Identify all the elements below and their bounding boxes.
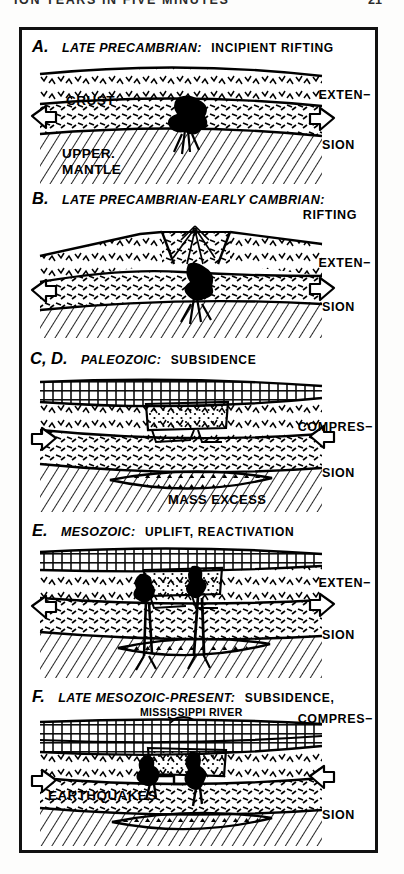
panel-a-stress-bottom: SION	[322, 138, 355, 152]
label-earthquakes: EARTHQUAKES	[48, 788, 157, 803]
panel-f-event: SUBSIDENCE,	[245, 691, 335, 705]
panel-b-stress-top: EXTEN−	[318, 256, 371, 270]
page-number: 21	[368, 0, 382, 7]
label-crust: CRUST	[66, 93, 115, 108]
panel-b: B. LATE PRECAMBRIAN-EARLY CAMBRIAN: RIFT…	[22, 188, 375, 343]
label-mantle: MANTLE	[62, 162, 121, 177]
panel-a-event: INCIPIENT RIFTING	[211, 41, 334, 55]
panel-f-era: LATE MESOZOIC-PRESENT:	[58, 691, 235, 705]
label-upper: UPPER.	[62, 146, 115, 161]
panel-e-era: MESOZOIC:	[61, 525, 135, 539]
panel-b-cross-section	[22, 220, 375, 340]
panel-cd: C, D. PALEOZOIC: SUBSIDENCE	[22, 348, 375, 516]
panel-a-letter: A.	[32, 37, 49, 55]
panel-e-stress-bottom: SION	[322, 628, 355, 642]
panel-b-title: B. LATE PRECAMBRIAN-EARLY CAMBRIAN:	[32, 188, 325, 208]
panel-a-era: LATE PRECAMBRIAN:	[62, 41, 202, 55]
figure-frame: A. LATE PRECAMBRIAN: INCIPIENT RIFTING	[19, 27, 378, 853]
panel-cd-event: SUBSIDENCE	[171, 353, 257, 367]
label-mississippi-river: MISSISSIPPI RIVER	[140, 706, 243, 718]
panel-e-stress-top: EXTEN−	[318, 576, 371, 590]
panel-f-letter: F.	[32, 687, 45, 705]
panel-cd-letter: C, D.	[30, 349, 68, 367]
panel-e-cross-section	[22, 544, 375, 680]
page-running-header: ION YEARS IN FIVE MINUTES 21	[0, 0, 404, 12]
panel-a-stress-top: EXTEN−	[318, 88, 371, 102]
panel-a-title: A. LATE PRECAMBRIAN: INCIPIENT RIFTING	[32, 36, 334, 56]
panel-a-cross-section: CRUST UPPER. MANTLE	[22, 58, 375, 186]
panel-f-cross-section: MISSISSIPPI RIVER EARTHQUAKES	[22, 706, 375, 848]
panel-a: A. LATE PRECAMBRIAN: INCIPIENT RIFTING	[22, 36, 375, 186]
panel-e-title: E. MESOZOIC: UPLIFT, REACTIVATION	[32, 520, 295, 540]
panel-e-letter: E.	[32, 521, 48, 539]
panel-cd-stress-bottom: SION	[322, 466, 355, 480]
panel-e: E. MESOZOIC: UPLIFT, REACTIVATION	[22, 520, 375, 682]
panel-cd-stress-top: COMPRES−	[298, 420, 373, 434]
panel-cd-title: C, D. PALEOZOIC: SUBSIDENCE	[30, 348, 256, 368]
panel-f-stress-bottom: SION	[322, 808, 355, 822]
panel-f-title: F. LATE MESOZOIC-PRESENT: SUBSIDENCE,	[32, 686, 335, 706]
panel-b-stress-bottom: SION	[322, 300, 355, 314]
panel-e-event: UPLIFT, REACTIVATION	[145, 525, 295, 539]
panel-f: F. LATE MESOZOIC-PRESENT: SUBSIDENCE, CO…	[22, 686, 375, 851]
panel-b-letter: B.	[32, 189, 49, 207]
running-title: ION YEARS IN FIVE MINUTES	[14, 0, 230, 7]
panel-cd-era: PALEOZOIC:	[81, 353, 161, 367]
panel-cd-cross-section: MASS EXCESS	[22, 372, 375, 514]
panel-b-era: LATE PRECAMBRIAN-EARLY CAMBRIAN:	[62, 193, 325, 207]
label-mass-excess: MASS EXCESS	[168, 492, 266, 507]
